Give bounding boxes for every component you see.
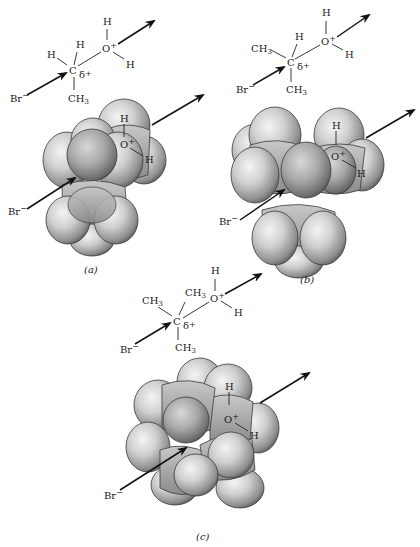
model-hydrogen-label: H — [225, 381, 234, 392]
oxygen-label: O+ — [102, 41, 117, 54]
space-filling-model-a: H O+ H Br− — [8, 95, 203, 256]
leaving-group-arrow-icon — [118, 21, 154, 44]
model-leaving-arrow-icon — [366, 110, 414, 138]
partial-charge-label: δ+ — [297, 61, 310, 72]
caption-c: (c) — [196, 531, 210, 542]
hydrogen-label: H — [234, 307, 243, 318]
model-hydrogen-label: H — [332, 120, 341, 131]
caption-a: (a) — [84, 264, 98, 275]
methyl-label: CH3 — [251, 43, 272, 56]
nucleophile-arrow-icon — [135, 323, 170, 344]
partial-charge-label: δ+ — [183, 320, 196, 331]
model-leaving-arrow-icon — [152, 95, 203, 125]
model-nucleophile-label: Br− — [219, 214, 238, 227]
model-hydrogen-label: H — [357, 168, 366, 179]
methyl-label: CH3 — [68, 93, 89, 106]
model-nucleophile-label: Br− — [8, 204, 27, 217]
nucleophile-arrow-icon — [27, 73, 66, 95]
hydrogen-label: H — [126, 59, 135, 70]
structural-formula-c: Br− C δ+ CH3 CH3 CH3 O+ H H — [120, 265, 261, 355]
hydrogen-label: H — [295, 31, 304, 42]
carbon-label: C — [287, 57, 295, 68]
panel-c: Br− C δ+ CH3 CH3 CH3 O+ H H — [104, 265, 309, 542]
hydrogen-label: H — [103, 16, 112, 27]
sn2-steric-hindrance-figure: Br− C δ+ H H CH3 O+ H H — [0, 0, 420, 547]
leaving-group-arrow-icon — [337, 15, 369, 37]
hydrogen-label: H — [322, 7, 331, 18]
model-leaving-arrow-icon — [260, 373, 309, 403]
model-hydrogen-label: H — [120, 113, 129, 124]
model-hydrogen-label: H — [145, 154, 154, 165]
hydrogen-label: H — [76, 39, 85, 50]
space-filling-model-b: H O+ H Br− — [219, 107, 414, 278]
structural-formula-b: Br− C δ+ CH3 H CH3 O+ H H — [236, 7, 369, 97]
carbon-label: C — [69, 65, 77, 76]
methyl-label: CH3 — [286, 84, 307, 97]
partial-charge-label: δ+ — [79, 69, 92, 80]
hydrogen-label: H — [47, 49, 56, 60]
caption-b: (b) — [300, 274, 314, 285]
nucleophile-label: Br− — [10, 91, 29, 104]
carbon-label: C — [173, 316, 181, 327]
methyl-label: CH3 — [185, 287, 206, 300]
methyl-label: CH3 — [142, 295, 163, 308]
nucleophile-label: Br− — [120, 342, 139, 355]
panel-a: Br− C δ+ H H CH3 O+ H H — [8, 16, 203, 275]
structural-formula-a: Br− C δ+ H H CH3 O+ H H — [10, 16, 154, 106]
hydrogen-label: H — [211, 265, 220, 276]
space-filling-model-c: H O+ H Br− — [104, 358, 309, 508]
model-hydrogen-label: H — [250, 430, 259, 441]
model-nucleophile-label: Br− — [104, 488, 123, 501]
leaving-group-arrow-icon — [225, 274, 261, 294]
nucleophile-arrow-icon — [253, 67, 284, 85]
methyl-label: CH3 — [175, 342, 196, 355]
nucleophile-label: Br− — [236, 82, 255, 95]
hydrogen-label: H — [345, 49, 354, 60]
panel-b: Br− C δ+ CH3 H CH3 O+ H H — [219, 7, 414, 285]
